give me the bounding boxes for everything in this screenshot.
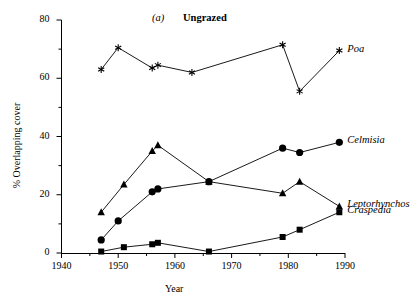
y-tick-label: 40 xyxy=(28,130,50,141)
x-axis-title: Year xyxy=(165,283,183,294)
y-tick-label: 60 xyxy=(28,71,50,82)
x-tick-label: 1990 xyxy=(325,260,365,271)
y-axis-ticks xyxy=(57,20,62,253)
panel-title: Ungrazed xyxy=(183,12,227,23)
x-tick-label: 1970 xyxy=(212,260,252,271)
y-axis-title: % Overlapping cover xyxy=(11,76,22,216)
y-tick-label: 0 xyxy=(28,246,50,257)
axis-lines xyxy=(62,20,346,254)
y-tick-label: 80 xyxy=(28,13,50,24)
series-label-celmisia: Celmisia xyxy=(347,134,384,145)
x-tick-label: 1950 xyxy=(98,260,138,271)
panel-letter: (a) xyxy=(152,12,164,23)
series-polylines xyxy=(101,45,339,252)
x-tick-label: 1940 xyxy=(42,260,82,271)
y-tick-label: 20 xyxy=(28,188,50,199)
series-markers xyxy=(97,41,343,254)
x-tick-label: 1980 xyxy=(268,260,308,271)
series-label-craspedia: Craspedia xyxy=(347,204,391,215)
series-label-poa: Poa xyxy=(347,43,364,54)
x-tick-label: 1960 xyxy=(155,260,195,271)
